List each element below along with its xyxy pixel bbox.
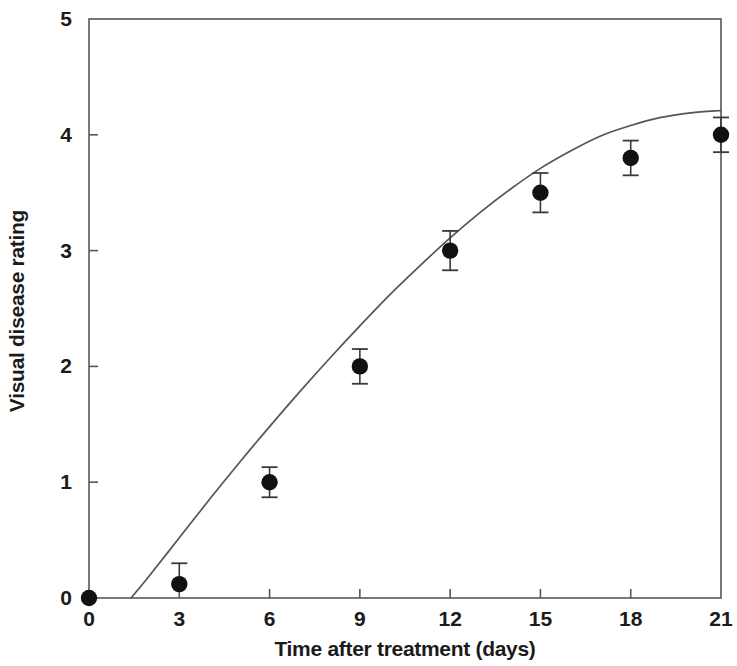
data-point: [261, 474, 277, 490]
data-point: [532, 185, 548, 201]
data-point: [171, 576, 187, 592]
fitted-curve: [131, 110, 721, 598]
x-tick-marks: [179, 589, 630, 598]
axis-frame: [89, 19, 721, 598]
y-tick-marks: [89, 135, 98, 482]
data-point: [623, 150, 639, 166]
error-bar-group: [171, 117, 729, 584]
data-point: [713, 127, 729, 143]
data-point: [352, 358, 368, 374]
data-point-group: [81, 127, 729, 607]
data-point: [81, 590, 97, 606]
data-point: [442, 242, 458, 258]
